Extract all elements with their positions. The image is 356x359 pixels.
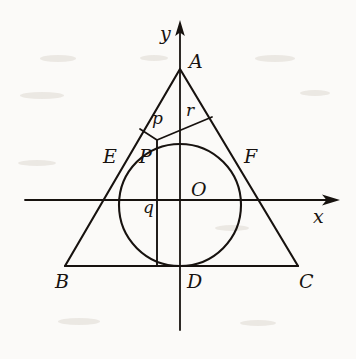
segment-label-q: q: [143, 199, 154, 216]
point-label-P: P: [139, 147, 152, 166]
point-label-O: O: [191, 180, 207, 199]
segment-r: [157, 117, 212, 140]
y-axis-label: y: [160, 24, 171, 43]
segment-label-r: r: [186, 102, 194, 119]
segment-label-p: p: [152, 110, 163, 127]
point-label-D: D: [187, 272, 202, 291]
point-label-E: E: [103, 147, 117, 166]
point-label-B: B: [55, 272, 69, 291]
point-label-A: A: [189, 52, 203, 71]
x-axis-label: x: [313, 207, 324, 226]
triangle-side-AC: [180, 69, 298, 266]
figure-canvas: [0, 0, 356, 359]
geometry-figure: A B C D E F O P p r q x y: [0, 0, 356, 359]
point-label-F: F: [244, 147, 257, 166]
point-label-C: C: [299, 272, 314, 291]
triangle-side-AB: [65, 69, 180, 266]
